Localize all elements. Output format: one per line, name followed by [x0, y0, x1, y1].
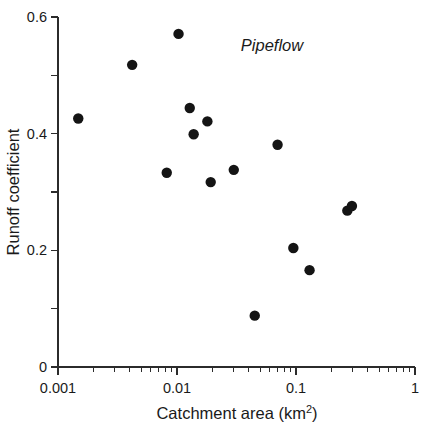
- y-tick-label: 0.6: [27, 9, 47, 25]
- scatter-plot: 00.20.40.6 0.0010.010.11 Pipeflow Runoff…: [0, 0, 431, 431]
- x-axis-tick-labels: 0.0010.010.11: [40, 380, 419, 396]
- data-point: [288, 243, 298, 253]
- x-tick-label: 0.001: [40, 380, 76, 396]
- y-axis-title: Runoff coefficient: [4, 128, 22, 255]
- data-point: [162, 168, 172, 178]
- data-point: [206, 177, 216, 187]
- data-point: [229, 165, 239, 175]
- data-point: [185, 103, 195, 113]
- x-axis-title-main: Catchment area (km: [156, 404, 305, 422]
- y-tick-label: 0.4: [27, 126, 47, 142]
- data-point: [188, 129, 198, 139]
- data-point: [173, 29, 183, 39]
- x-axis-ticks: [58, 367, 415, 375]
- series-annotation-pipeflow: Pipeflow: [241, 36, 304, 54]
- data-point: [202, 116, 212, 126]
- data-point: [73, 113, 83, 123]
- y-tick-label: 0: [39, 359, 47, 375]
- x-axis-title-tail: ): [312, 404, 318, 422]
- x-axis-title: Catchment area (km2): [156, 403, 317, 422]
- y-axis-tick-labels: 00.20.40.6: [27, 9, 47, 375]
- data-point: [272, 140, 282, 150]
- x-tick-label: 1: [411, 380, 419, 396]
- data-point: [347, 201, 357, 211]
- x-tick-label: 0.01: [163, 380, 191, 396]
- x-tick-label: 0.1: [286, 380, 306, 396]
- y-tick-label: 0.2: [27, 242, 47, 258]
- data-point: [127, 60, 137, 70]
- y-axis-ticks: [51, 17, 58, 367]
- chart-figure: 00.20.40.6 0.0010.010.11 Pipeflow Runoff…: [0, 0, 431, 431]
- data-point-group: [73, 29, 357, 321]
- data-point: [304, 265, 314, 275]
- data-point: [250, 310, 260, 320]
